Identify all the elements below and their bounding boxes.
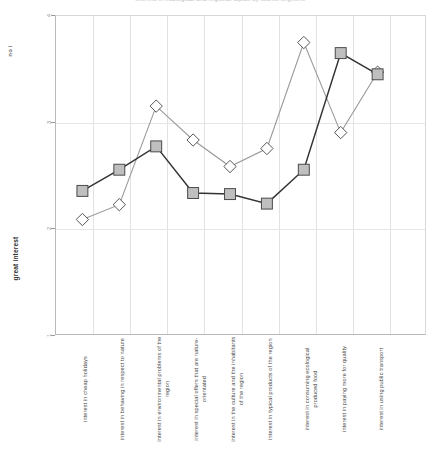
series-1 bbox=[77, 48, 383, 209]
data-point-square bbox=[151, 141, 162, 152]
y-axis-tick-mark bbox=[51, 335, 55, 336]
x-axis-category-label: interest in paying more for quality bbox=[341, 335, 349, 443]
data-point-square bbox=[335, 48, 346, 59]
data-point-square bbox=[114, 164, 125, 175]
x-axis-category-label: interest in the culture and the inhabita… bbox=[230, 335, 245, 443]
data-point-diamond bbox=[261, 142, 273, 154]
y-axis-tick-label: 1 bbox=[46, 334, 52, 354]
data-point-diamond bbox=[298, 36, 310, 48]
y-axis-tick-label: 3 bbox=[46, 121, 52, 141]
chart-container: Interest in ecological and regional topi… bbox=[0, 0, 440, 456]
x-axis-category-label: interest in behaving in respect to natur… bbox=[119, 335, 127, 443]
x-axis-category-label: interest in special offers that are natu… bbox=[193, 335, 208, 443]
data-point-diamond bbox=[224, 160, 236, 172]
data-point-square bbox=[188, 188, 199, 199]
series-layer bbox=[56, 16, 425, 334]
y-axis-top-label: no i bbox=[7, 45, 13, 56]
data-point-square bbox=[261, 198, 272, 209]
chart-title: Interest in ecological and regional topi… bbox=[0, 0, 440, 2]
x-axis-category-label: interest in typical products of the regi… bbox=[267, 335, 275, 443]
x-axis-category-label: interest in environmental problems of th… bbox=[156, 335, 171, 443]
y-axis-tick-label: 2 bbox=[46, 227, 52, 247]
x-axis-category-label: interest in cheap holidays bbox=[82, 335, 90, 443]
y-axis-tick-label: 4 bbox=[46, 14, 52, 34]
data-point-diamond bbox=[76, 213, 88, 225]
y-axis-bottom-label: great interest bbox=[12, 235, 19, 283]
data-point-diamond bbox=[113, 199, 125, 211]
data-point-square bbox=[225, 189, 236, 200]
data-point-square bbox=[372, 69, 383, 80]
data-point-diamond bbox=[335, 126, 347, 138]
data-point-square bbox=[298, 164, 309, 175]
x-axis-category-label: interest in consuming ecological produce… bbox=[304, 335, 319, 443]
plot-area bbox=[55, 15, 426, 335]
x-axis-category-label: interest in using public transport bbox=[378, 335, 386, 443]
data-point-square bbox=[77, 185, 88, 196]
